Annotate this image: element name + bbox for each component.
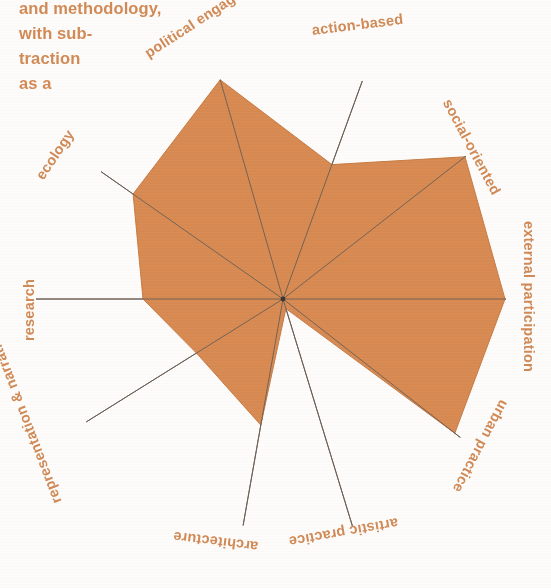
data-polygon-profile: [133, 80, 505, 433]
radar-center-hub: [281, 297, 286, 302]
radar-chart-figure: and methodology, with sub- traction as a…: [0, 0, 551, 588]
radar-chart-svg: [0, 0, 551, 588]
